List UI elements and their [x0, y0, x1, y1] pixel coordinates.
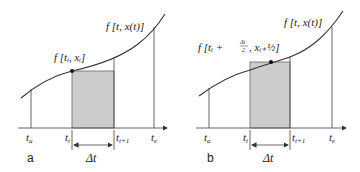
panel-label-a: a — [27, 151, 34, 165]
evaluation-point — [269, 60, 273, 64]
euler-rectangle — [72, 71, 114, 128]
point-frac-den: 2 — [242, 47, 245, 53]
tick-label-ti: ti — [243, 131, 248, 145]
midpoint-rectangle — [250, 62, 290, 128]
point-label-x: , xᵢ₊½] — [249, 41, 280, 53]
point-label: f [tᵢ, xᵢ] — [54, 51, 85, 63]
midpoint-label: f [tᵢ + Δt 2 , xᵢ₊½] — [198, 39, 280, 53]
tick-label-ti1: ti+1 — [292, 131, 305, 145]
integration-diagram: f [t, x(t)] f [tᵢ, xᵢ] ta ti ti+1 te Δt … — [0, 0, 360, 172]
panel-a: f [t, x(t)] f [tᵢ, xᵢ] ta ti ti+1 te Δt … — [18, 14, 167, 165]
curve-label: f [t, x(t)] — [106, 20, 144, 33]
tick-label-ta: ta — [26, 131, 33, 145]
evaluation-point — [70, 69, 74, 73]
panel-label-b: b — [207, 151, 214, 165]
delta-label: Δt — [85, 151, 97, 165]
tick-label-ta: ta — [204, 131, 211, 145]
tick-label-ti1: ti+1 — [116, 131, 129, 145]
delta-label: Δt — [262, 151, 274, 165]
tick-label-te: te — [329, 131, 335, 145]
panel-b: f [t, x(t)] f [tᵢ + Δt 2 , xᵢ₊½] ta ti t… — [196, 11, 346, 165]
point-frac-num: Δt — [239, 39, 246, 45]
curve-label: f [t, x(t)] — [284, 16, 322, 29]
point-label-prefix: f [tᵢ + — [198, 41, 223, 53]
tick-label-ti: ti — [65, 131, 70, 145]
tick-label-te: te — [151, 131, 157, 145]
